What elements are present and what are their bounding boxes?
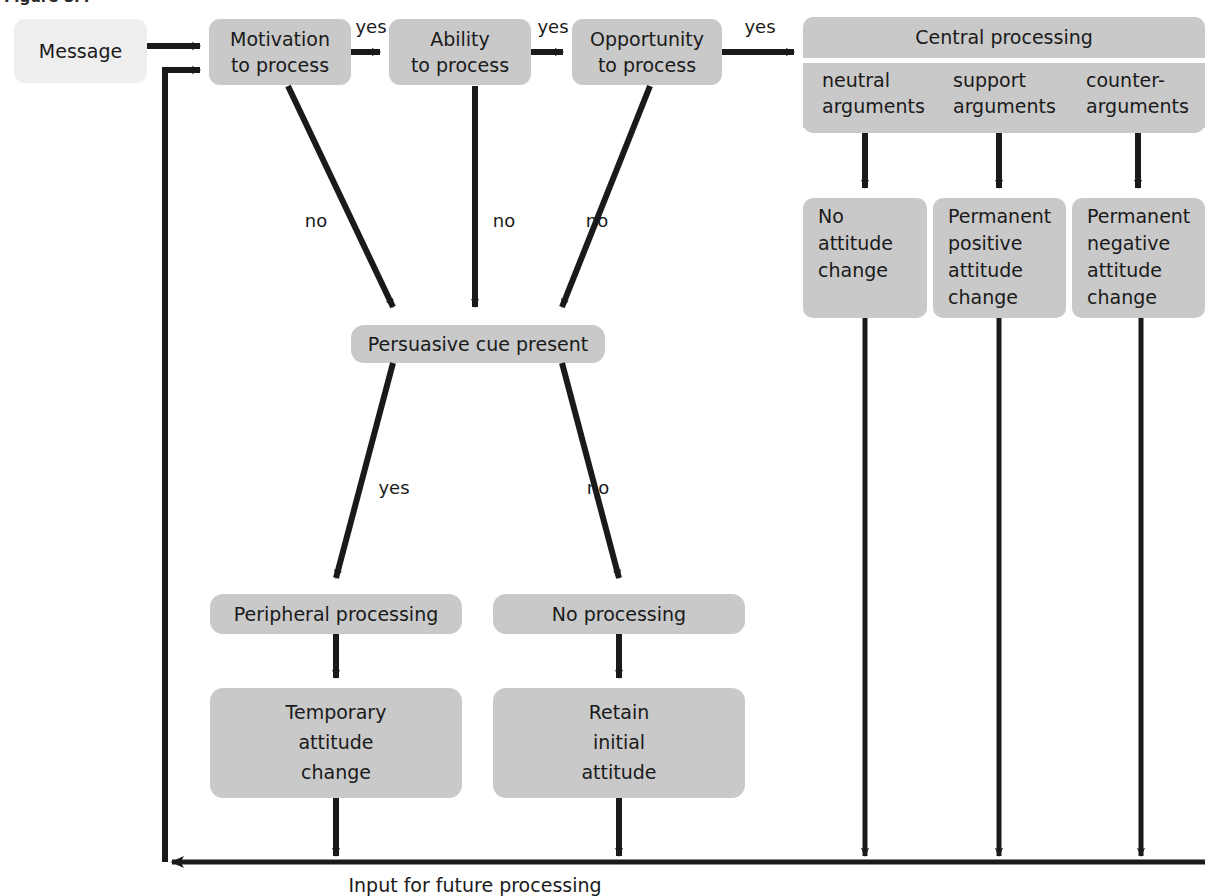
temporary-change-line1: Temporary xyxy=(285,701,387,723)
bottom-caption: Input for future processing xyxy=(348,874,601,896)
opportunity-label-line1: Opportunity xyxy=(590,28,704,50)
neutral-arguments-line2: arguments xyxy=(822,95,925,117)
motivation-label-line2: to process xyxy=(231,54,329,76)
counter-arguments-line1: counter- xyxy=(1086,69,1165,91)
neutral-arguments-line1: neutral xyxy=(822,69,890,91)
support-arguments-line1: support xyxy=(953,69,1026,91)
peripheral-processing-label: Peripheral processing xyxy=(234,603,439,625)
node-outcome-permanent-negative: Permanent negative attitude change xyxy=(1072,198,1205,318)
temporary-change-line2: attitude xyxy=(298,731,373,753)
ability-label-line1: Ability xyxy=(430,28,490,50)
node-no-processing: No processing xyxy=(493,594,745,634)
outcome-2-line2: positive xyxy=(948,232,1023,254)
node-temporary-attitude-change: Temporary attitude change xyxy=(210,688,462,798)
edge-label-motivation-no: no xyxy=(305,210,327,231)
flowchart-canvas: Figure 8.4 Message Motivation to process… xyxy=(0,0,1217,896)
edge-cue-no-to-no-processing xyxy=(562,363,619,578)
edge-opportunity-no-to-cue xyxy=(562,86,650,307)
edge-label-motivation-yes: yes xyxy=(355,16,386,37)
node-retain-initial-attitude: Retain initial attitude xyxy=(493,688,745,798)
ability-label-line2: to process xyxy=(411,54,509,76)
retain-attitude-line3: attitude xyxy=(581,761,656,783)
node-message: Message xyxy=(14,19,147,83)
edge-label-opportunity-yes: yes xyxy=(744,16,775,37)
node-central-processing: Central processing neutral arguments sup… xyxy=(803,17,1205,133)
central-processing-title: Central processing xyxy=(915,26,1093,48)
outcome-3-line4: change xyxy=(1087,286,1157,308)
temporary-change-line3: change xyxy=(301,761,371,783)
counter-arguments-line2: arguments xyxy=(1086,95,1189,117)
edge-motivation-no-to-cue xyxy=(288,86,393,307)
retain-attitude-line1: Retain xyxy=(589,701,649,723)
node-ability-to-process: Ability to process xyxy=(389,19,531,85)
opportunity-label-line2: to process xyxy=(598,54,696,76)
outcome-1-line1: No xyxy=(818,205,844,227)
edge-cue-yes-to-peripheral xyxy=(336,363,393,578)
elaboration-likelihood-model-diagram: Figure 8.4 Message Motivation to process… xyxy=(0,0,1217,896)
node-outcome-permanent-positive: Permanent positive attitude change xyxy=(933,198,1066,318)
outcome-2-line4: change xyxy=(948,286,1018,308)
node-peripheral-processing: Peripheral processing xyxy=(210,594,462,634)
retain-attitude-line2: initial xyxy=(593,731,645,753)
message-label: Message xyxy=(39,40,122,62)
edge-label-ability-yes: yes xyxy=(537,16,568,37)
edge-label-opportunity-no: no xyxy=(586,210,608,231)
outcome-1-line2: attitude xyxy=(818,232,893,254)
node-persuasive-cue-present: Persuasive cue present xyxy=(351,325,605,363)
outcome-3-line2: negative xyxy=(1087,232,1170,254)
persuasive-cue-label: Persuasive cue present xyxy=(368,333,588,355)
node-motivation-to-process: Motivation to process xyxy=(209,19,351,85)
top-caption-fragment: Figure 8.4 xyxy=(4,0,90,6)
feedback-riser-to-motivation xyxy=(165,70,200,862)
outcome-3-line3: attitude xyxy=(1087,259,1162,281)
node-opportunity-to-process: Opportunity to process xyxy=(572,19,722,85)
node-outcome-no-attitude-change: No attitude change xyxy=(803,198,927,318)
edge-label-cue-no: no xyxy=(587,477,609,498)
support-arguments-line2: arguments xyxy=(953,95,1056,117)
no-processing-label: No processing xyxy=(552,603,686,625)
outcome-2-line3: attitude xyxy=(948,259,1023,281)
edge-label-ability-no: no xyxy=(493,210,515,231)
central-processing-divider xyxy=(803,58,1205,63)
motivation-label-line1: Motivation xyxy=(230,28,330,50)
top-caption-text: Figure 8.4 xyxy=(4,0,90,6)
outcome-2-line1: Permanent xyxy=(948,205,1051,227)
outcome-1-line3: change xyxy=(818,259,888,281)
outcome-3-line1: Permanent xyxy=(1087,205,1190,227)
edge-label-cue-yes: yes xyxy=(378,477,409,498)
